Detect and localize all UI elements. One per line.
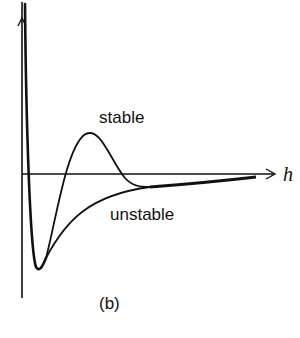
curve-stable <box>46 133 150 258</box>
potential-diagram <box>0 0 300 338</box>
figure-caption: (b) <box>99 295 120 312</box>
stable-label: stable <box>99 109 144 126</box>
x-axis-label: h <box>283 164 293 184</box>
unstable-label: unstable <box>110 206 174 223</box>
curve-wall <box>25 4 46 269</box>
curve-tail <box>150 177 256 187</box>
